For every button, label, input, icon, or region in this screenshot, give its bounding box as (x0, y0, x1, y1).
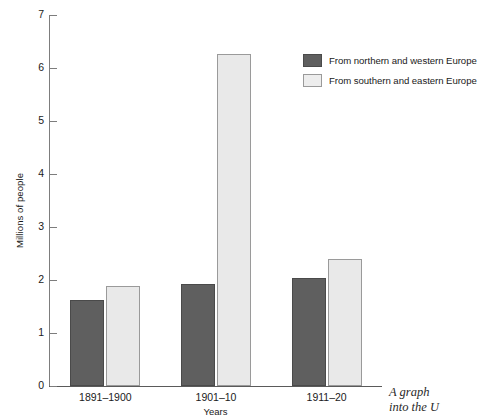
bar-chart: Millions of people 01234567 1891–1900190… (0, 0, 488, 419)
caption-line-2: into the U (389, 400, 488, 415)
legend-label: From southern and eastern Europe (329, 75, 477, 86)
x-tick-label: 1911–20 (272, 391, 382, 403)
y-tick-mark (50, 386, 57, 387)
bar (217, 54, 251, 386)
y-tick-label: 2 (20, 274, 44, 285)
x-tick-label: 1891–1900 (50, 391, 160, 403)
bar (292, 278, 326, 386)
bar (181, 284, 215, 386)
legend-swatch-icon (303, 54, 322, 67)
x-tick-label: 1901–10 (161, 391, 271, 403)
legend-swatch-icon (303, 74, 322, 87)
y-tick-label: 3 (20, 221, 44, 232)
x-axis-line (49, 386, 382, 387)
bar (106, 286, 140, 386)
x-axis-title: Years (49, 406, 382, 417)
y-tick-label: 4 (20, 168, 44, 179)
y-tick-label: 1 (20, 327, 44, 338)
caption-line-1: A graph (389, 385, 488, 400)
legend-label: From northern and western Europe (329, 55, 477, 66)
y-tick-label: 6 (20, 62, 44, 73)
y-tick-label: 7 (20, 9, 44, 20)
y-tick-label: 0 (20, 380, 44, 391)
y-axis-title: Millions of people (14, 141, 25, 281)
legend-item: From southern and eastern Europe (303, 72, 477, 89)
figure-caption: A graph into the U (389, 385, 488, 415)
legend-item: From northern and western Europe (303, 52, 477, 69)
bar (328, 259, 362, 386)
chart-legend: From northern and western EuropeFrom sou… (303, 52, 477, 92)
y-tick-label: 5 (20, 115, 44, 126)
bar (70, 300, 104, 386)
